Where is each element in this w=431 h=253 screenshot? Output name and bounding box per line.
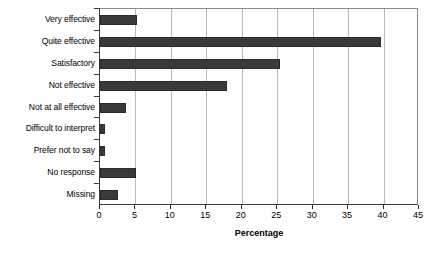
category-label: No response [0,167,95,177]
category-tick [94,96,99,97]
category-label: Prefer not to say [0,145,95,155]
axis-tick-label: 25 [261,210,291,221]
category-tick [94,117,99,118]
category-label: Not effective [0,80,95,90]
axis-tick-label: 45 [403,210,431,221]
bar [100,81,227,91]
axis-tick-label: 15 [190,210,220,221]
category-label: Difficult to interpret [0,123,95,133]
axis-tick-label: 5 [119,210,149,221]
category-tick [94,52,99,53]
bar-chart-figure: Very effectiveQuite effectiveSatisfactor… [0,0,431,253]
axis-tick [170,205,171,209]
axis-tick [276,205,277,209]
category-tick [94,30,99,31]
axis-tick [241,205,242,209]
category-label: Satisfactory [0,58,95,68]
category-tick [94,74,99,75]
bar [100,15,137,25]
category-tick [94,8,99,9]
axis-tick [312,205,313,209]
category-tick [94,139,99,140]
category-label: Very effective [0,14,95,24]
gridline [384,9,385,204]
category-label: Missing [0,189,95,199]
axis-tick-label: 20 [226,210,256,221]
bar [100,146,105,156]
bar [100,124,105,134]
bar [100,59,280,69]
axis-tick [418,205,419,209]
axis-tick-label: 40 [368,210,398,221]
category-tick [94,161,99,162]
axis-tick [347,205,348,209]
axis-tick-label: 35 [332,210,362,221]
axis-tick [99,205,100,209]
axis-tick [205,205,206,209]
axis-tick-label: 10 [155,210,185,221]
axis-tick [134,205,135,209]
bar [100,168,136,178]
value-axis-title: Percentage [99,228,419,238]
category-label: Not at all effective [0,102,95,112]
bar [100,37,381,47]
plot-area [99,8,418,205]
bar [100,103,126,113]
value-axis: 051015202530354045 [99,205,419,225]
category-label: Quite effective [0,36,95,46]
axis-tick-label: 30 [297,210,327,221]
bar [100,190,118,200]
axis-tick-label: 0 [84,210,114,221]
category-tick [94,183,99,184]
category-axis: Very effectiveQuite effectiveSatisfactor… [0,8,95,205]
axis-tick [383,205,384,209]
